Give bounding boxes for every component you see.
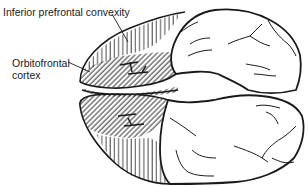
brain-illustration: [0, 0, 308, 186]
lower-lobe-body: [160, 95, 304, 184]
upper-hemisphere: [80, 9, 301, 93]
lower-hemisphere: [80, 86, 304, 184]
label-text-line-2: cortex: [12, 69, 41, 81]
brain-diagram: Inferior prefrontal convexity Orbitofron…: [0, 0, 308, 186]
label-orbitofrontal-cortex: Orbitofrontal cortex: [12, 57, 70, 81]
label-text: Inferior prefrontal convexity: [3, 6, 130, 18]
label-text-line-1: Orbitofrontal: [12, 57, 70, 69]
upper-lobe-body: [171, 9, 301, 93]
label-inferior-prefrontal-convexity: Inferior prefrontal convexity: [3, 6, 130, 18]
